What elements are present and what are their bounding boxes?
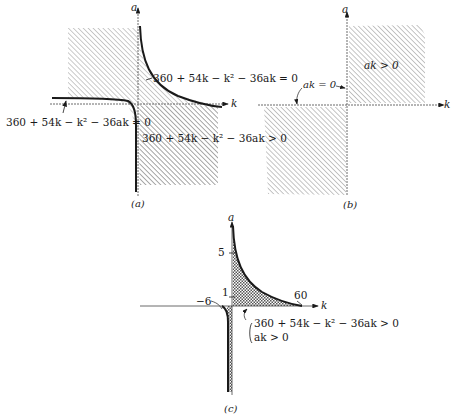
panel-b-boundary-label: ak = 0 bbox=[303, 80, 336, 90]
panel-b bbox=[258, 12, 444, 195]
panel-a-caption: (a) bbox=[131, 198, 145, 209]
panel-b-third-quadrant-region bbox=[264, 107, 346, 195]
panel-c-lower-curve bbox=[222, 306, 228, 392]
panel-a-lower-branch bbox=[52, 98, 136, 192]
panel-c-tick-5: 5 bbox=[218, 247, 225, 258]
panel-c-tick-minus6: −6 bbox=[196, 296, 211, 307]
panel-c-condition-1: 360 + 54k − k² − 36ak > 0 bbox=[254, 318, 399, 329]
panel-a-k-axis-label: k bbox=[231, 98, 237, 109]
panel-c-k-axis-label: k bbox=[321, 300, 327, 311]
panel-c-condition-2: ak > 0 bbox=[254, 332, 289, 343]
panel-b-k-axis-label: k bbox=[444, 99, 450, 110]
panel-c-tick-60: 60 bbox=[294, 290, 307, 301]
panel-a bbox=[50, 8, 228, 196]
panel-b-caption: (b) bbox=[343, 199, 357, 210]
panel-b-a-axis-label: a bbox=[342, 4, 348, 15]
panel-c bbox=[140, 222, 318, 395]
panel-c-a-axis-label: a bbox=[228, 212, 234, 223]
panel-a-region-label: 360 + 54k − k² − 36ak > 0 bbox=[142, 133, 287, 144]
panel-a-a-axis-label: a bbox=[131, 2, 137, 13]
panel-a-upper-curve-label: 360 + 54k − k² − 36ak = 0 bbox=[153, 73, 298, 84]
panel-b-region-label: ak > 0 bbox=[364, 60, 399, 71]
panel-c-caption: (c) bbox=[224, 403, 237, 414]
panel-a-lower-curve-label: 360 + 54k − k² − 36ak = 0 bbox=[6, 117, 151, 128]
panel-c-tick-1: 1 bbox=[222, 287, 229, 298]
